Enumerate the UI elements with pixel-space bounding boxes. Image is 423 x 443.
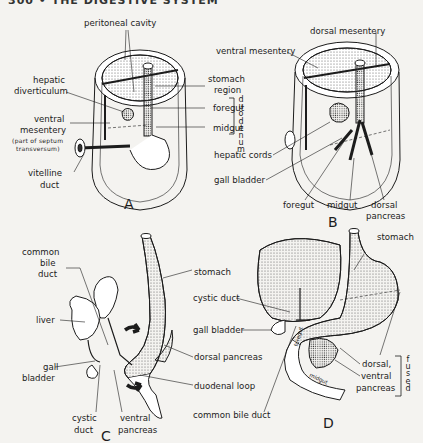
label-dorsal-pancreas-b-line2: pancreas bbox=[366, 211, 405, 221]
label-hepatic-diverticulum-line2: diverticulum bbox=[14, 86, 68, 96]
fused-text: fused bbox=[405, 355, 410, 393]
label-dorsal-ventral-line3: pancreas bbox=[356, 383, 395, 393]
label-dorsal-ventral-line1: dorsal, bbox=[362, 359, 391, 369]
label-foregut-b: foregut bbox=[283, 200, 314, 210]
line-art-drawings bbox=[0, 0, 423, 443]
label-fused-vertical: fused bbox=[404, 356, 412, 392]
panel-b-drawing bbox=[266, 32, 400, 210]
label-gall-line1: gall bbox=[43, 362, 59, 372]
label-stomach-c: stomach bbox=[194, 267, 231, 277]
label-ventral-mesentery-line1: ventral bbox=[34, 114, 64, 124]
panel-letter-b: B bbox=[328, 214, 338, 230]
label-gall-bladder-d: gall bladder bbox=[193, 325, 244, 335]
label-stomach-d: stomach bbox=[377, 232, 414, 242]
label-septum-line1: (part of septum bbox=[12, 137, 63, 144]
label-common-bile-line2: bile bbox=[40, 258, 56, 268]
label-gall-bladder-b: gall bladder bbox=[214, 175, 265, 185]
panel-letter-c: C bbox=[101, 428, 111, 443]
embryology-figure: 300 • THE DIGESTIVE SYSTEM bbox=[0, 0, 423, 443]
label-liver: liver bbox=[36, 315, 55, 325]
label-hepatic-cords: hepatic cords bbox=[214, 150, 272, 160]
label-peritoneal-cavity: peritoneal cavity bbox=[84, 18, 156, 28]
panel-a-drawing bbox=[66, 30, 234, 210]
label-cystic-line1: cystic bbox=[72, 413, 97, 423]
label-ventral-pancreas-c-line1: ventral bbox=[120, 413, 150, 423]
label-cystic-duct-d: cystic duct bbox=[193, 293, 240, 303]
label-dorsal-pancreas-c: dorsal pancreas bbox=[194, 352, 262, 362]
label-stomach-region-line1: stomach bbox=[208, 74, 245, 84]
label-vitelline-line2: duct bbox=[40, 180, 59, 190]
label-ventral-mesentery-b: ventral mesentery bbox=[216, 46, 295, 56]
label-ventral-pancreas-c-line2: pancreas bbox=[118, 425, 157, 435]
label-stomach-region-line2: region bbox=[214, 85, 241, 95]
label-gall-line2: bladder bbox=[22, 373, 55, 383]
label-common-bile-line3: duct bbox=[38, 269, 57, 279]
label-septum-line2: transversum) bbox=[16, 145, 60, 152]
label-ventral-mesentery-line2: mesentery bbox=[20, 125, 66, 135]
label-dorsal-mesentery: dorsal mesentery bbox=[310, 26, 385, 36]
label-common-bile-line1: common bbox=[22, 247, 59, 257]
label-duodenal-loop: duodenal loop bbox=[194, 381, 255, 391]
label-cystic-line2: duct bbox=[74, 425, 93, 435]
panel-c-drawing bbox=[55, 234, 193, 419]
panel-letter-a: A bbox=[124, 196, 134, 212]
label-dorsal-pancreas-b-line1: dorsal bbox=[371, 200, 397, 210]
duodenum-text: duodenum bbox=[237, 95, 245, 154]
panel-letter-d: D bbox=[323, 415, 334, 431]
label-dorsal-ventral-line2: ventral bbox=[361, 371, 391, 381]
label-hepatic-diverticulum-line1: hepatic bbox=[33, 75, 65, 85]
label-midgut-b: midgut bbox=[327, 200, 358, 210]
label-vitelline-line1: vitelline bbox=[28, 168, 62, 178]
label-common-bile-duct-d: common bile duct bbox=[193, 410, 270, 420]
label-duodenum-vertical: duodenum bbox=[237, 96, 245, 154]
